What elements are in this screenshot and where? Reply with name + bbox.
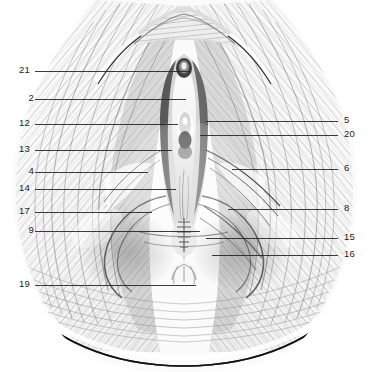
- label-14[interactable]: 14: [0, 183, 33, 193]
- label-4[interactable]: 4: [0, 166, 37, 176]
- label-16[interactable]: 16: [344, 249, 355, 259]
- label-12[interactable]: 12: [0, 118, 33, 128]
- label-19[interactable]: 19: [0, 279, 33, 289]
- label-6[interactable]: 6: [344, 163, 349, 173]
- clitoris-glans: [176, 58, 192, 78]
- label-9[interactable]: 9: [0, 225, 37, 235]
- body-region: [0, 0, 369, 372]
- anatomical-illustration: [0, 0, 369, 372]
- anatomy-figure: 212121341417919 520681516: [0, 0, 369, 372]
- label-13[interactable]: 13: [0, 144, 33, 154]
- label-21[interactable]: 21: [0, 65, 33, 75]
- label-5[interactable]: 5: [344, 115, 349, 125]
- label-17[interactable]: 17: [0, 206, 33, 216]
- label-20[interactable]: 20: [344, 129, 355, 139]
- label-2[interactable]: 2: [0, 93, 37, 103]
- label-8[interactable]: 8: [344, 203, 349, 213]
- label-15[interactable]: 15: [344, 232, 355, 242]
